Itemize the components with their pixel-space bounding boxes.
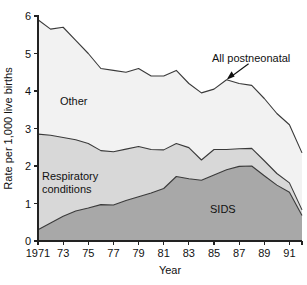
series-label-other: Other bbox=[60, 95, 88, 107]
x-tick-label: 91 bbox=[283, 247, 295, 259]
series-label-respiratory-line1: Respiratory bbox=[42, 170, 99, 182]
annotation-label-all-postneonatal: All postneonatal bbox=[212, 52, 290, 64]
y-tick-label: 6 bbox=[25, 10, 31, 22]
y-axis-title: Rate per 1,000 live births bbox=[2, 67, 14, 190]
y-tick-label: 4 bbox=[25, 85, 31, 97]
series-label-sids: SIDS bbox=[210, 203, 236, 215]
x-tick-label: 83 bbox=[183, 247, 195, 259]
x-tick-label: 75 bbox=[82, 247, 94, 259]
y-tick-label: 1 bbox=[25, 198, 31, 210]
series-label-respiratory-line2: conditions bbox=[42, 183, 92, 195]
postneonatal-mortality-area-chart: 0123456 197173757779818385878991 Rate pe… bbox=[0, 0, 307, 285]
x-tick-label: 81 bbox=[158, 247, 170, 259]
y-tick-label: 5 bbox=[25, 48, 31, 60]
x-tick-label: 79 bbox=[132, 247, 144, 259]
y-tick-label: 3 bbox=[25, 123, 31, 135]
x-tick-label: 87 bbox=[233, 247, 245, 259]
y-tick-label: 0 bbox=[25, 235, 31, 247]
x-axis-title: Year bbox=[159, 264, 182, 276]
chart-container: 0123456 197173757779818385878991 Rate pe… bbox=[0, 0, 307, 285]
x-tick-label: 85 bbox=[208, 247, 220, 259]
x-tick-label: 1971 bbox=[26, 247, 50, 259]
x-tick-label: 89 bbox=[258, 247, 270, 259]
x-tick-label: 77 bbox=[107, 247, 119, 259]
y-tick-label: 2 bbox=[25, 160, 31, 172]
x-tick-label: 73 bbox=[57, 247, 69, 259]
